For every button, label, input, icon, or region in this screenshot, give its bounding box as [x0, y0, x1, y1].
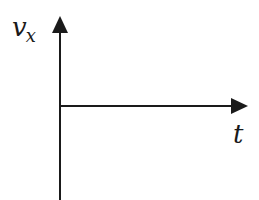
x-axis-arrowhead-icon: [231, 98, 248, 114]
y-axis-arrowhead-icon: [52, 16, 68, 33]
y-axis-label: vx: [12, 14, 37, 40]
y-axis-label-main: v: [12, 12, 27, 42]
axes-svg: [0, 0, 259, 200]
y-axis-label-subscript: x: [26, 25, 36, 46]
x-axis-label: t: [233, 121, 243, 147]
vx-t-axes-diagram: vx t: [0, 0, 259, 200]
